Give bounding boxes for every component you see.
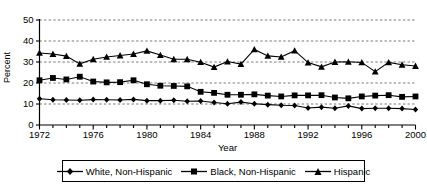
square-marker-icon [181,166,207,177]
data-point [278,94,284,100]
chart-legend: White, Non-Hispanic Black, Non-Hispanic … [62,160,365,182]
data-point [50,97,55,103]
data-point [104,97,109,103]
series-2 [36,46,419,75]
data-point [37,77,43,83]
data-point [157,83,163,89]
data-point [171,83,177,89]
data-point [345,95,351,101]
data-point [225,101,230,107]
data-point [63,77,69,83]
x-tick-label: 1984 [184,130,218,140]
data-point [77,97,82,103]
diamond-marker-icon [57,166,83,177]
legend-label: White, Non-Hispanic [86,166,173,177]
data-point [332,105,337,111]
data-point [211,100,216,106]
data-point [117,97,122,103]
series-1 [37,74,419,101]
data-point [117,79,123,85]
data-point [359,94,365,100]
data-point [359,106,364,112]
data-point [332,95,338,101]
y-tick-label: 40 [14,36,34,45]
data-point [251,46,258,52]
data-point [224,58,231,64]
legend-label: Black, Non-Hispanic [210,166,296,177]
x-axis-label: Year [198,142,258,153]
data-point [198,98,203,104]
data-point [225,92,231,98]
data-point [104,79,110,85]
data-point [305,92,311,98]
data-point [158,98,163,104]
legend-item: Black, Non-Hispanic [181,166,296,177]
y-tick-label: 30 [14,57,34,66]
x-tick-label: 1996 [345,130,379,140]
triangle-marker-icon [305,166,331,177]
data-point [413,106,418,112]
x-tick-label: 2000 [399,130,427,140]
data-point [399,94,405,100]
data-point [131,77,137,83]
x-tick-label: 1980 [130,130,164,140]
y-tick-label: 0 [14,120,34,129]
data-point [91,97,96,103]
x-tick-label: 1992 [291,130,325,140]
data-point [251,91,257,97]
x-tick-label: 1988 [237,130,271,140]
data-point [319,104,324,110]
data-point [291,47,298,53]
data-point [265,102,270,108]
data-point [373,105,378,111]
data-point [211,64,218,70]
data-point [50,75,56,81]
data-point [372,93,378,99]
y-tick-label: 20 [14,78,34,87]
data-point [265,93,271,99]
legend-item: White, Non-Hispanic [57,166,173,177]
y-tick-label: 10 [14,99,34,108]
data-point [131,96,136,102]
data-point [292,92,298,98]
x-tick-label: 1972 [23,130,57,140]
data-point [346,103,351,109]
legend-label: Hispanic [334,166,370,177]
data-point [64,97,69,103]
data-point [386,105,391,111]
x-tick-label: 1976 [76,130,110,140]
data-point [305,105,310,111]
data-point [372,68,379,74]
legend-item: Hispanic [305,166,370,177]
data-point [211,90,217,96]
data-point [238,92,244,98]
data-point [144,98,149,104]
data-point [413,94,419,100]
data-point [198,89,204,95]
data-point [90,79,96,85]
data-point [185,98,190,104]
y-tick-label: 50 [14,15,34,24]
percent-by-race-line-chart: Percent 01020304050 19721976198019841988… [0,0,427,191]
data-point [319,92,325,98]
data-point [144,47,151,53]
data-point [144,81,150,87]
data-point [184,83,190,89]
data-point [292,102,297,108]
data-point [171,97,176,103]
data-point [399,106,404,112]
data-point [252,101,257,107]
data-point [386,92,392,98]
data-point [77,74,83,80]
data-point [279,102,284,108]
data-point [37,96,42,102]
